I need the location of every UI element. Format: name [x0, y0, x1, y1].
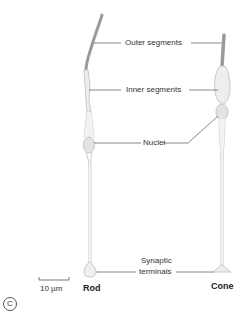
rod-cell: [84, 15, 103, 277]
label-outer-segments: Outer segments: [125, 39, 182, 47]
rod-synaptic-terminal: [84, 262, 96, 277]
cone-nucleus: [216, 104, 228, 120]
leader-lines: [89, 43, 222, 272]
label-synaptic-terminals-line2: terminals: [139, 268, 171, 276]
label-cone: Cone: [211, 281, 234, 291]
rod-outer-segment: [86, 15, 102, 70]
scale-bar: [39, 277, 69, 280]
cone-synaptic-terminal: [213, 265, 231, 272]
rod-nucleus: [84, 137, 95, 153]
label-inner-segments: Inner segments: [126, 86, 181, 94]
cone-outer-segment: [222, 35, 224, 66]
cone-cell: [213, 35, 231, 272]
label-synaptic-terminals-line1: Synaptic: [141, 257, 172, 265]
photoreceptor-diagram: [0, 0, 246, 320]
rod-inner-segment: [84, 70, 91, 112]
cone-inner-segment: [215, 66, 230, 103]
label-rod: Rod: [83, 283, 101, 293]
scale-bar-label: 10 µm: [40, 284, 62, 293]
label-nuclei: Nuclei: [143, 139, 165, 147]
panel-label: C: [3, 297, 17, 311]
